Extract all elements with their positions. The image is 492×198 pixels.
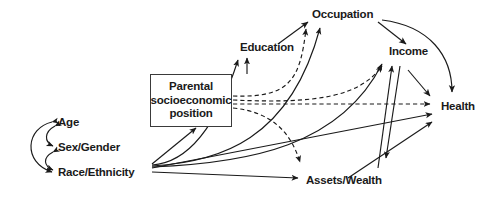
- edge-age-sexgender: [46, 126, 55, 146]
- node-label-health: Health: [441, 100, 475, 112]
- node-label-education: Education: [240, 41, 294, 53]
- node-parental-socioeconomic-position-box: Parental socioeconomic position: [150, 74, 232, 127]
- parental-box-line-3: position: [150, 107, 231, 121]
- causal-path-diagram: Age Sex/Gender Race/Ethnicity Parental s…: [0, 0, 492, 198]
- edge-age-race: [31, 122, 52, 172]
- parental-box-line-2: socioeconomic: [150, 94, 231, 108]
- parental-box-line-1: Parental: [150, 80, 231, 94]
- edge-parental-occupation: [233, 29, 306, 96]
- node-label-income: Income: [389, 45, 428, 57]
- node-label-race-ethnicity: Race/Ethnicity: [58, 166, 134, 178]
- node-label-assets-wealth: Assets/Wealth: [306, 174, 382, 186]
- node-label-age: Age: [58, 116, 79, 128]
- node-label-occupation: Occupation: [312, 8, 373, 20]
- edge-sexgender-race: [45, 152, 53, 170]
- node-label-sex-gender: Sex/Gender: [58, 141, 120, 153]
- edge-parental-assets: [233, 108, 300, 162]
- edge-occupation-income: [378, 22, 406, 44]
- edge-income-assets: [408, 70, 430, 96]
- edge-race-assets: [152, 172, 298, 178]
- parental-box-text: Parental socioeconomic position: [150, 80, 231, 121]
